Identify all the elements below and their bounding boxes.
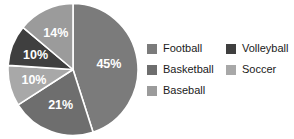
legend-item[interactable]: Volleyball [226,38,294,59]
legend-color-swatch [226,65,236,75]
pie-slice-value-label: 10% [21,73,46,87]
legend-item-label: Football [163,43,202,54]
chart-legend: FootballBasketballBaseball VolleyballSoc… [147,38,294,100]
pie-slice-value-label: 10% [23,48,48,62]
pie-chart-plot-area: 45%21%10%10%14% [7,2,140,137]
pie-chart-figure: 45%21%10%10%14% FootballBasketballBaseba… [0,0,294,139]
legend-color-swatch [147,86,157,96]
legend-item-label: Volleyball [242,43,288,54]
pie-slice-value-label: 45% [96,57,121,71]
legend-item[interactable]: Basketball [147,59,226,80]
legend-column-left: FootballBasketballBaseball [147,38,226,101]
pie-chart-svg: 45%21%10%10%14% [7,2,140,137]
legend-item-label: Basketball [163,64,214,75]
legend-item-label: Baseball [163,85,205,96]
legend-item[interactable]: Baseball [147,80,226,101]
legend-column-right: VolleyballSoccer [226,38,294,80]
pie-slice-value-label: 14% [43,26,68,40]
legend-color-swatch [147,44,157,54]
pie-slice-value-label: 21% [48,98,73,112]
legend-color-swatch [226,44,236,54]
legend-item[interactable]: Soccer [226,59,294,80]
legend-item[interactable]: Football [147,38,226,59]
legend-color-swatch [147,65,157,75]
legend-item-label: Soccer [242,64,276,75]
